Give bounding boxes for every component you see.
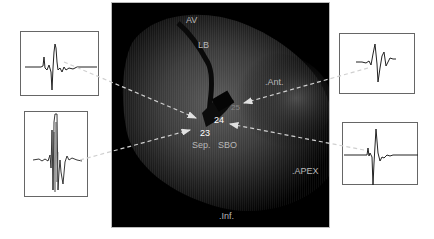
label-point-23: 23: [200, 128, 210, 138]
label-apex: .APEX: [292, 166, 319, 176]
electrogram-top-left: [20, 31, 99, 96]
label-point-25: 25: [231, 103, 240, 112]
ecg-trace-bottom-right: [343, 123, 419, 186]
cardiac-map-image: AV LB .Ant. 24 25 23 Sep. SBO .APEX .Inf…: [111, 2, 330, 228]
electrogram-bottom-right: [342, 122, 418, 185]
label-av: AV: [186, 15, 197, 25]
label-sbo: SBO: [218, 140, 237, 150]
electrogram-bottom-left: [24, 111, 88, 197]
label-lb: LB: [198, 40, 209, 50]
label-point-24: 24: [214, 115, 224, 125]
ecg-trace-top-right: [340, 34, 416, 95]
label-inf: .Inf.: [219, 211, 234, 221]
ecg-trace-bottom-left: [25, 112, 89, 198]
electrogram-top-right: [339, 33, 415, 94]
label-sep: Sep.: [192, 140, 211, 150]
ecg-trace-top-left: [21, 32, 100, 97]
label-ant: .Ant.: [265, 77, 284, 87]
